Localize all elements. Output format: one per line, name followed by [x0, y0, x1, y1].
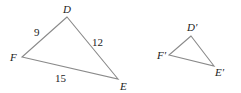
side-length-DE: 12 [92, 36, 103, 48]
similar-triangles-diagram: D F E 9 12 15 D′ F′ E′ [0, 0, 241, 93]
vertex-label-F-prime: F′ [156, 49, 167, 61]
vertex-label-E-prime: E′ [214, 66, 225, 78]
triangle-DEF: D F E 9 12 15 [9, 3, 127, 92]
triangle-DEF-prime: D′ F′ E′ [156, 21, 225, 78]
triangle-DEF-prime-outline [169, 36, 214, 66]
vertex-label-D-prime: D′ [186, 21, 198, 33]
side-length-DF: 9 [34, 26, 40, 38]
vertex-label-F: F [9, 51, 17, 63]
side-length-FE: 15 [55, 72, 67, 84]
vertex-label-D: D [62, 3, 71, 15]
vertex-label-E: E [119, 80, 127, 92]
